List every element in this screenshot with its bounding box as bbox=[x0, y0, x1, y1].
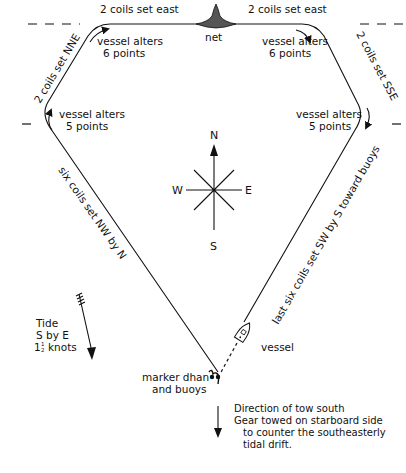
north-arrow-icon bbox=[210, 144, 218, 156]
tide-label-line2: S by E bbox=[36, 329, 69, 341]
leg-label-east-right: 2 coils set east bbox=[248, 3, 327, 15]
vessel-label: vessel bbox=[261, 341, 294, 353]
turn-label-top-right-line1: vessel alters bbox=[262, 35, 328, 47]
leg-label-sw: last six coils set SW by S toward buoys bbox=[269, 143, 381, 326]
tow-note-line1: Direction of tow south bbox=[234, 403, 345, 414]
turn-label-mid-left-line2: 5 points bbox=[66, 120, 108, 132]
tow-note-line4: tidal drift. bbox=[243, 439, 292, 450]
turn-label-mid-left-line1: vessel alters bbox=[59, 108, 125, 120]
compass-e: E bbox=[245, 184, 252, 197]
tide-arrow-icon bbox=[76, 293, 96, 360]
tow-line bbox=[220, 343, 237, 374]
turn-label-mid-right-line2: 5 points bbox=[309, 120, 351, 132]
marker-label-line2: and buoys bbox=[152, 383, 207, 395]
compass-rose bbox=[186, 144, 242, 230]
turn-label-mid-right-line1: vessel alters bbox=[296, 108, 362, 120]
leg-label-nne: 2 coils set NNE bbox=[31, 31, 82, 105]
leg-label-nw: six coils set NW by N bbox=[56, 164, 129, 261]
net-label: net bbox=[205, 31, 222, 43]
leg-label-east-left: 2 coils set east bbox=[100, 3, 179, 15]
marker-label-line1: marker dhan bbox=[142, 371, 209, 383]
vessel-icon bbox=[234, 320, 253, 342]
tow-direction-arrow-icon bbox=[214, 406, 222, 438]
tide-label-line1: Tide bbox=[35, 317, 58, 329]
tide-label-unit: knots bbox=[48, 341, 77, 353]
turn-label-top-right-line2: 6 points bbox=[269, 47, 311, 59]
tow-note-line3: to counter the southeasterly bbox=[243, 427, 386, 438]
turn-label-top-left-line2: 6 points bbox=[103, 47, 145, 59]
tow-note-line2: Gear towed on starboard side bbox=[234, 415, 383, 426]
compass-w: W bbox=[172, 184, 183, 197]
compass-s: S bbox=[210, 240, 217, 253]
leg-label-sse: 2 coils set SSE bbox=[354, 29, 400, 102]
tide-label-line3-whole: 1 bbox=[34, 341, 41, 353]
rope-path bbox=[45, 24, 361, 372]
turn-arrow-mid-right bbox=[366, 108, 369, 128]
compass-n: N bbox=[210, 129, 218, 142]
marker-dhan-icon bbox=[209, 370, 220, 384]
seine-net-setting-diagram: net 2 coils set east 2 coils set east 2 … bbox=[0, 0, 406, 473]
net-icon bbox=[196, 4, 236, 28]
turn-label-top-left-line1: vessel alters bbox=[97, 35, 163, 47]
tide-label-frac-den: 2 bbox=[41, 347, 45, 353]
